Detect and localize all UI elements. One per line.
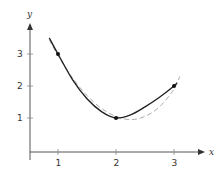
dashed-curve — [49, 40, 180, 120]
y-tick-label: 2 — [17, 81, 23, 91]
y-axis-arrow-icon — [27, 23, 33, 30]
points-layer — [56, 52, 176, 120]
y-axis-label: y — [26, 9, 33, 19]
data-point — [114, 116, 118, 120]
data-point — [56, 52, 60, 56]
axes: xy123123 — [17, 9, 214, 168]
solid-curve — [49, 38, 177, 118]
x-axis-label: x — [209, 147, 214, 157]
y-tick-label: 3 — [17, 49, 23, 59]
series-layer — [49, 38, 180, 120]
x-axis-arrow-icon — [198, 149, 205, 155]
x-tick-label: 3 — [172, 158, 178, 168]
y-tick-label: 1 — [17, 113, 23, 123]
x-tick-label: 2 — [114, 158, 120, 168]
x-tick-label: 1 — [56, 158, 62, 168]
data-point — [172, 84, 176, 88]
chart: xy123123 — [0, 0, 220, 174]
